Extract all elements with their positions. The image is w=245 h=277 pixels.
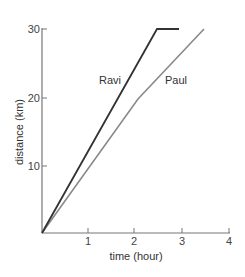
x-axis-title: time (hour) [109, 250, 162, 262]
distance-time-chart: 30 20 10 1 2 3 4 time (hour) distance (k… [0, 0, 245, 277]
y-tick-label-10: 10 [28, 160, 40, 172]
series-ravi-line [42, 29, 179, 233]
y-tick-label-30: 30 [28, 23, 40, 35]
x-tick-label-4: 4 [226, 235, 232, 247]
x-tick-label-2: 2 [131, 235, 137, 247]
y-tick-label-20: 20 [28, 92, 40, 104]
x-tick-label-1: 1 [85, 235, 91, 247]
series-label-paul: Paul [165, 74, 187, 86]
axes [42, 28, 230, 233]
y-axis-title: distance (km) [13, 99, 25, 165]
series-paul-line [42, 29, 204, 233]
series-label-ravi: Ravi [99, 74, 121, 86]
x-tick-label-3: 3 [179, 235, 185, 247]
